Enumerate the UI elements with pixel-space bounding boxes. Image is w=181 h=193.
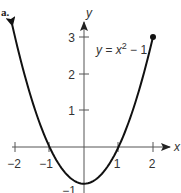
equation-lhs: y = x xyxy=(95,43,123,57)
y-tick-label: 3 xyxy=(68,31,75,45)
x-tick-label: −1 xyxy=(39,157,53,171)
y-axis-label: y xyxy=(85,6,93,20)
part-label: a. xyxy=(1,6,10,18)
x-axis-label: x xyxy=(173,140,181,154)
y-min-label: −1 xyxy=(62,184,76,193)
x-axis: x −2 −1 1 2 xyxy=(7,140,181,171)
x-tick-label: −2 xyxy=(7,157,21,171)
y-tick-label: 2 xyxy=(68,68,75,82)
parabola-graph: a. x −2 −1 1 2 y 1 2 3 −1 y = x2 − 1 xyxy=(0,0,181,193)
y-axis: y 1 2 3 −1 xyxy=(62,6,93,193)
equation-rhs: − 1 xyxy=(127,43,148,57)
x-tick-label: 1 xyxy=(114,157,121,171)
x-tick-label: 2 xyxy=(149,157,156,171)
y-tick-label: 1 xyxy=(68,104,75,118)
endpoint-dot xyxy=(150,34,156,40)
equation-label: y = x2 − 1 xyxy=(95,41,147,57)
